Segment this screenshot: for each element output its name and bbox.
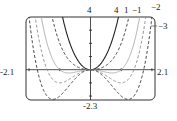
y-min-label: -2.3 (83, 102, 97, 111)
curve-label-neg2: −2 (151, 3, 161, 12)
curve-label-4: 4 (114, 6, 119, 15)
x-min-label: -2.1 (0, 68, 14, 77)
curve-label-neg3: −3 (158, 22, 168, 31)
curve-label-1: 1 (124, 6, 129, 15)
y-max-label: 4 (87, 6, 92, 15)
x-max-label: 2.1 (157, 68, 168, 77)
curve-label-neg1: −1 (132, 6, 142, 15)
